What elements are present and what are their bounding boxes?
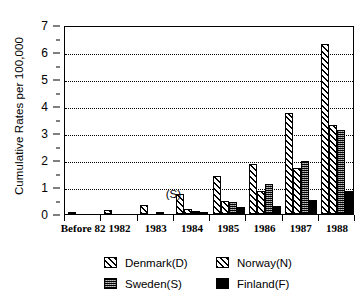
bar-group (140, 27, 173, 214)
bar-group (321, 27, 354, 214)
y-tick-label: 2 (8, 154, 48, 168)
legend-item-finland[interactable]: Finland(F) (216, 278, 328, 290)
x-tick-label: 1983 (145, 222, 167, 234)
bar (200, 212, 208, 214)
bar (337, 130, 345, 214)
bar (321, 44, 329, 214)
y-tick-mark (53, 134, 60, 135)
x-tick-label: 1986 (253, 222, 275, 234)
legend-label: Norway(N) (237, 257, 292, 269)
bar (249, 164, 257, 214)
y-tick-mark (53, 26, 60, 27)
y-tick-mark (53, 53, 60, 54)
y-tick-label: 1 (8, 181, 48, 195)
bar-group (213, 27, 246, 214)
chart-legend: Denmark(D)Norway(N)Sweden(S)Finland(F) (104, 252, 344, 294)
bar (285, 113, 293, 214)
x-tick-mark (137, 215, 138, 221)
legend-swatch-icon (216, 278, 229, 289)
y-tick-mark (53, 80, 60, 81)
y-tick-mark-minor (56, 201, 60, 202)
x-tick-mark (354, 215, 355, 221)
bar (293, 168, 301, 214)
y-tick-mark (53, 188, 60, 189)
x-tick-label: 1982 (108, 222, 130, 234)
x-tick-label: 1984 (181, 222, 203, 234)
x-tick-mark (318, 215, 319, 221)
y-tick-mark (53, 107, 60, 108)
bar (237, 207, 245, 214)
x-tick-mark (173, 215, 174, 221)
y-tick-label: 3 (8, 127, 48, 141)
bar-group (285, 27, 318, 214)
x-tick-label: 1985 (217, 222, 239, 234)
bar (156, 212, 164, 214)
x-tick-mark (64, 215, 65, 221)
chart-figure: Cumulative Rates per 100,000 01234567 (S… (0, 0, 364, 300)
y-tick-mark (53, 215, 60, 216)
y-tick-mark-minor (56, 66, 60, 67)
bar (213, 176, 221, 214)
legend-swatch-icon (104, 257, 117, 268)
x-axis-tick-labels: Before 821982198319841985198619871988 (0, 222, 364, 242)
bar (229, 202, 237, 214)
y-tick-mark-minor (56, 147, 60, 148)
bar (140, 205, 148, 214)
bar (257, 191, 265, 214)
bar-group (176, 27, 209, 214)
legend-swatch-icon (104, 278, 117, 289)
sweden-annotation: (S) (166, 188, 181, 200)
bar (301, 161, 309, 214)
y-tick-mark (53, 161, 60, 162)
legend-swatch-icon (216, 257, 229, 268)
legend-item-norway[interactable]: Norway(N) (216, 257, 328, 269)
x-tick-label: Before 82 (61, 222, 106, 234)
y-tick-label: 6 (8, 46, 48, 60)
x-tick-mark (100, 215, 101, 221)
bar (184, 209, 192, 214)
bar-group (104, 27, 137, 214)
bar (221, 201, 229, 215)
x-tick-mark (245, 215, 246, 221)
y-tick-label: 0 (8, 208, 48, 222)
y-tick-mark-minor (56, 39, 60, 40)
bar (309, 200, 317, 214)
bar-group (68, 27, 101, 214)
plot-area: (S) (64, 26, 354, 215)
bar (104, 210, 112, 214)
legend-label: Sweden(S) (125, 278, 182, 290)
x-tick-label: 1988 (326, 222, 348, 234)
y-tick-label: 5 (8, 73, 48, 87)
bar (329, 125, 337, 214)
bar-series-layer (65, 27, 353, 214)
x-tick-mark (209, 215, 210, 221)
y-tick-mark-minor (56, 174, 60, 175)
bar (345, 191, 353, 214)
legend-item-sweden[interactable]: Sweden(S) (104, 278, 216, 290)
y-axis-tick-labels: 01234567 (0, 26, 60, 215)
legend-label: Finland(F) (237, 278, 289, 290)
y-tick-mark-minor (56, 120, 60, 121)
y-tick-mark-minor (56, 93, 60, 94)
bar (68, 212, 76, 214)
bar (265, 184, 273, 214)
legend-item-denmark[interactable]: Denmark(D) (104, 257, 216, 269)
bar (192, 211, 200, 214)
x-tick-label: 1987 (290, 222, 312, 234)
bar-group (249, 27, 282, 214)
y-tick-label: 7 (8, 19, 48, 33)
legend-label: Denmark(D) (125, 257, 188, 269)
bar (273, 206, 281, 214)
x-tick-mark (282, 215, 283, 221)
y-tick-label: 4 (8, 100, 48, 114)
